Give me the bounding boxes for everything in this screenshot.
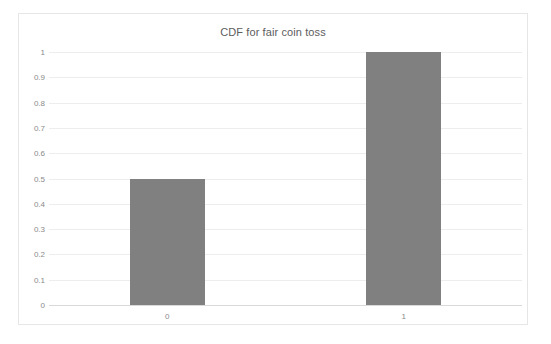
y-tick-label: 0.1 [19,275,45,284]
x-axis: 01 [49,308,522,326]
gridline [49,128,522,129]
gridline [49,280,522,281]
gridline [49,77,522,78]
gridline [49,153,522,154]
y-tick-label: 0.8 [19,98,45,107]
y-tick-label: 0.6 [19,149,45,158]
gridline [49,179,522,180]
y-tick-label: 1 [19,48,45,57]
y-tick-label: 0.2 [19,250,45,259]
y-tick-label: 0.5 [19,174,45,183]
y-axis: 00.10.20.30.40.50.60.70.80.91 [19,52,45,305]
plot-area [49,52,522,305]
bar [366,52,441,305]
y-tick-label: 0.9 [19,73,45,82]
bar [130,179,205,306]
gridline [49,254,522,255]
chart-title: CDF for fair coin toss [19,26,527,38]
x-tick-label: 0 [165,312,169,321]
y-tick-label: 0 [19,301,45,310]
x-tick-label: 1 [402,312,406,321]
gridline [49,103,522,104]
chart-container: CDF for fair coin toss 00.10.20.30.40.50… [18,13,528,325]
gridline [49,52,522,53]
x-axis-baseline [49,305,522,306]
y-tick-label: 0.4 [19,199,45,208]
y-tick-label: 0.3 [19,225,45,234]
gridline [49,229,522,230]
gridline [49,204,522,205]
y-tick-label: 0.7 [19,123,45,132]
